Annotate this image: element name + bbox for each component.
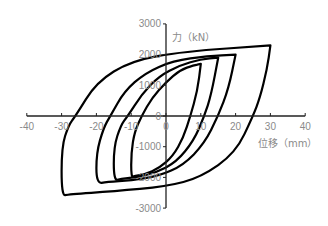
x-tick-label: 10	[195, 121, 207, 132]
x-tick-label: -10	[124, 121, 139, 132]
axes: -40-30-20-100102030403000200010000-1000-…	[20, 18, 312, 213]
x-axis-title: 位移（mm）	[258, 137, 317, 149]
x-tick-label: 20	[230, 121, 242, 132]
x-tick-label: -30	[54, 121, 69, 132]
y-tick-label: -1000	[135, 141, 161, 152]
x-tick-label: 30	[265, 121, 277, 132]
y-tick-label: -2000	[135, 172, 161, 183]
y-tick-label: 0	[155, 111, 161, 122]
hysteresis-chart: -40-30-20-100102030403000200010000-1000-…	[0, 0, 328, 226]
y-tick-label: 3000	[139, 18, 162, 29]
y-tick-label: 1000	[139, 80, 162, 91]
y-tick-label: 2000	[139, 49, 162, 60]
x-tick-label: -40	[20, 121, 35, 132]
y-axis-title: 力（kN）	[172, 31, 215, 43]
y-tick-label: -3000	[135, 203, 161, 214]
x-tick-label: 0	[163, 121, 169, 132]
x-tick-label: 40	[300, 121, 312, 132]
x-tick-label: -20	[89, 121, 104, 132]
